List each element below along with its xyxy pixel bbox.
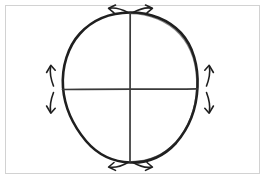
sketch-drawing (0, 0, 265, 179)
horizontal-axis-line (63, 89, 198, 90)
sketch-canvas (0, 0, 265, 179)
